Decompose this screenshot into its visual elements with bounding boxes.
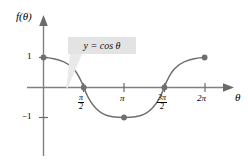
point-marker-halfpi-0 bbox=[81, 85, 87, 91]
x-axis-arrowhead bbox=[223, 83, 234, 92]
x-tick-label-three-half-pi-denominator: 2 bbox=[159, 103, 165, 111]
point-marker-pi-neg1 bbox=[121, 115, 127, 121]
point-marker-2pi-1 bbox=[202, 55, 208, 61]
x-tick-label-half-pi: π 2 bbox=[78, 93, 84, 111]
x-tick-label-half-pi-numerator: π bbox=[78, 94, 84, 102]
equation-callout: y = cos θ bbox=[68, 37, 136, 54]
callout-tail bbox=[66, 54, 82, 92]
x-tick-label-two-pi: 2π bbox=[197, 94, 206, 103]
y-tick-label-1: 1 bbox=[27, 52, 32, 61]
x-tick-label-three-half-pi-numerator: 3π bbox=[157, 94, 167, 102]
x-tick-label-pi: π bbox=[120, 94, 125, 103]
x-tick-label-half-pi-denominator: 2 bbox=[78, 103, 84, 111]
y-axis-label: f(θ) bbox=[16, 11, 32, 22]
point-marker-3halfpi-0 bbox=[162, 85, 168, 91]
plot-canvas bbox=[0, 0, 248, 164]
equation-callout-text: y = cos θ bbox=[84, 40, 121, 51]
cosine-graph-figure: f(θ) θ 1 −1 π 2 π 3π 2 2π y = cos θ bbox=[0, 0, 248, 164]
x-tick-label-three-half-pi: 3π 2 bbox=[157, 93, 167, 111]
y-tick-label-neg1: −1 bbox=[22, 112, 32, 121]
x-axis-label: θ bbox=[235, 92, 240, 103]
point-marker-0-1 bbox=[41, 55, 47, 61]
y-axis-arrowhead bbox=[39, 15, 48, 26]
